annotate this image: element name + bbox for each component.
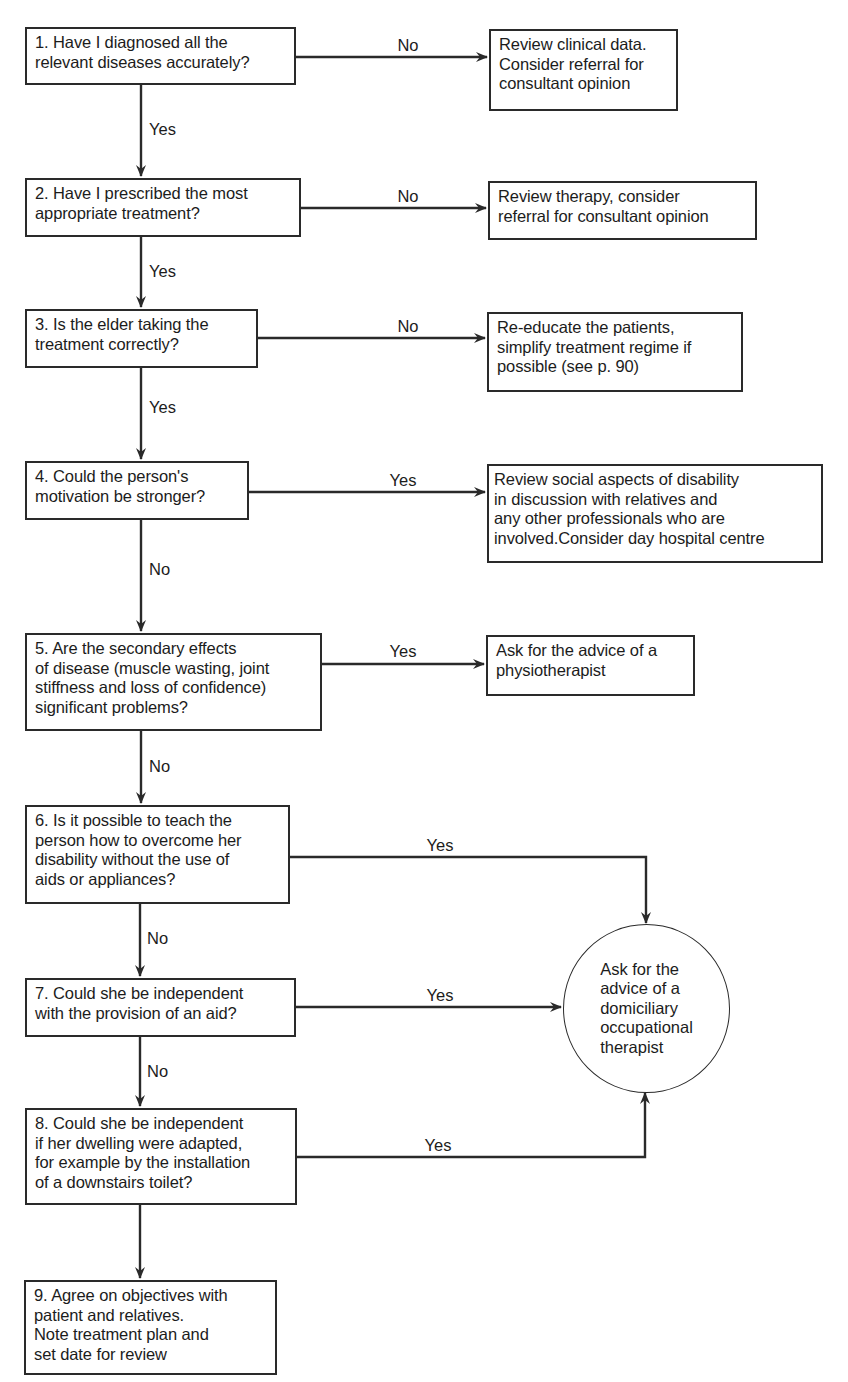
action-box-physiotherapist: Ask for the advice of a physiotherapist (486, 635, 695, 696)
question-box-2: 2. Have I prescribed the most appropriat… (25, 178, 301, 237)
question-box-7: 7. Could she be independent with the pro… (25, 978, 296, 1037)
branch-label-q1: No (397, 36, 418, 54)
down-label-q5: No (149, 757, 170, 775)
question-box-6: 6. Is it possible to teach the person ho… (25, 805, 290, 904)
down-label-q3: Yes (149, 398, 176, 416)
action-box-social-aspects: Review social aspects of disability in d… (487, 464, 823, 563)
branch-label-q6: Yes (427, 836, 454, 854)
outcome-box-9: 9. Agree on objectives with patient and … (24, 1280, 277, 1375)
terminal-circle-text: Ask for the advice of a domiciliary occu… (600, 960, 693, 1058)
down-label-q4: No (149, 560, 170, 578)
question-box-8: 8. Could she be independent if her dwell… (25, 1108, 297, 1205)
branch-label-q8: Yes (425, 1136, 452, 1154)
flowchart: 1. Have I diagnosed all the relevant dis… (0, 0, 848, 1382)
branch-label-q4: Yes (390, 471, 417, 489)
question-box-1: 1. Have I diagnosed all the relevant dis… (25, 27, 296, 85)
question-box-3: 3. Is the elder taking the treatment cor… (25, 309, 258, 368)
branch-label-q7: Yes (427, 986, 454, 1004)
question-box-5: 5. Are the secondary effects of disease … (25, 633, 322, 731)
down-label-q2: Yes (149, 262, 176, 280)
branch-label-q5: Yes (390, 642, 417, 660)
action-box-re-educate: Re-educate the patients, simplify treatm… (487, 312, 743, 392)
action-box-review-therapy: Review therapy, consider referral for co… (488, 181, 757, 240)
branch-label-q2: No (397, 187, 418, 205)
action-box-review-clinical-data: Review clinical data. Consider referral … (489, 29, 678, 111)
down-label-q6: No (147, 929, 168, 947)
down-label-q1: Yes (149, 120, 176, 138)
question-box-4: 4. Could the person's motivation be stro… (25, 461, 249, 520)
terminal-circle-occupational-therapist: Ask for the advice of a domiciliary occu… (563, 924, 730, 1093)
down-label-q7: No (147, 1062, 168, 1080)
branch-label-q3: No (397, 317, 418, 335)
